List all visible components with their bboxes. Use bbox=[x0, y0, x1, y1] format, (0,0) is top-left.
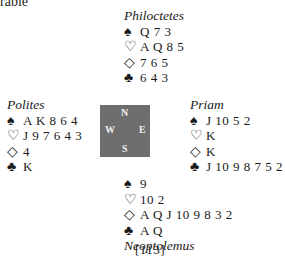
west-clubs: ♣K bbox=[7, 159, 82, 175]
heart-icon: ♡ bbox=[124, 192, 140, 208]
diamond-icon: ◇ bbox=[190, 144, 206, 160]
west-spades: ♠A K 8 6 4 bbox=[7, 113, 82, 129]
south-spades-cards: 9 bbox=[140, 176, 147, 191]
spade-icon: ♠ bbox=[190, 113, 206, 129]
east-diamonds: ◇K bbox=[190, 144, 283, 160]
west-spades-cards: A K 8 6 4 bbox=[23, 113, 78, 128]
south-diamonds: ◇A Q J 10 9 8 3 2 bbox=[124, 207, 233, 223]
west-hearts: ♡J 9 7 6 4 3 bbox=[7, 128, 82, 144]
club-icon: ♣ bbox=[190, 159, 206, 175]
west-hearts-cards: J 9 7 6 4 3 bbox=[23, 128, 82, 143]
diamond-icon: ◇ bbox=[7, 144, 23, 160]
east-player-name: Priam bbox=[190, 97, 283, 113]
diamond-icon: ◇ bbox=[124, 207, 140, 223]
north-diamonds-cards: 7 6 5 bbox=[140, 55, 169, 70]
east-clubs-cards: J 10 9 8 7 5 2 bbox=[206, 159, 283, 174]
east-spades-cards: J 10 5 2 bbox=[206, 113, 251, 128]
compass-box: N W E S bbox=[100, 105, 150, 157]
south-diamonds-cards: A Q J 10 9 8 3 2 bbox=[140, 207, 233, 222]
east-hearts-cards: K bbox=[206, 128, 216, 143]
north-hand: Philoctetes ♠Q 7 3 ♡A Q 8 5 ◇7 6 5 ♣6 4 … bbox=[124, 8, 184, 86]
heart-icon: ♡ bbox=[190, 128, 206, 144]
compass-south-label: S bbox=[122, 143, 128, 154]
spade-icon: ♠ bbox=[124, 24, 140, 40]
club-icon: ♣ bbox=[124, 223, 140, 239]
text-fragment: rable bbox=[0, 0, 28, 10]
east-hearts: ♡K bbox=[190, 128, 283, 144]
south-hearts-cards: 10 2 bbox=[140, 192, 165, 207]
east-clubs: ♣J 10 9 8 7 5 2 bbox=[190, 159, 283, 175]
club-icon: ♣ bbox=[7, 159, 23, 175]
north-diamonds: ◇7 6 5 bbox=[124, 55, 184, 71]
south-clubs: ♣A Q bbox=[124, 223, 233, 239]
diamond-icon: ◇ bbox=[124, 55, 140, 71]
west-clubs-cards: K bbox=[23, 159, 33, 174]
club-icon: ♣ bbox=[124, 70, 140, 86]
spade-icon: ♠ bbox=[7, 113, 23, 129]
north-player-name: Philoctetes bbox=[124, 8, 184, 24]
south-spades: ♠9 bbox=[124, 176, 233, 192]
south-clubs-cards: A Q bbox=[140, 223, 163, 238]
north-spades-cards: Q 7 3 bbox=[140, 24, 171, 39]
compass-west-label: W bbox=[105, 124, 115, 135]
north-clubs: ♣6 4 3 bbox=[124, 70, 184, 86]
east-spades: ♠J 10 5 2 bbox=[190, 113, 283, 129]
compass-north-label: N bbox=[121, 107, 128, 118]
north-clubs-cards: 6 4 3 bbox=[140, 70, 169, 85]
heart-icon: ♡ bbox=[124, 39, 140, 55]
north-hearts: ♡A Q 8 5 bbox=[124, 39, 184, 55]
heart-icon: ♡ bbox=[7, 128, 23, 144]
east-diamonds-cards: K bbox=[206, 144, 216, 159]
north-spades: ♠Q 7 3 bbox=[124, 24, 184, 40]
east-hand: Priam ♠J 10 5 2 ♡K ◇K ♣J 10 9 8 7 5 2 bbox=[190, 97, 283, 175]
west-diamonds: ◇4 bbox=[7, 144, 82, 160]
page-number: [113] bbox=[135, 242, 165, 258]
west-diamonds-cards: 4 bbox=[23, 144, 30, 159]
south-hearts: ♡10 2 bbox=[124, 192, 233, 208]
west-player-name: Polites bbox=[7, 97, 82, 113]
compass-east-label: E bbox=[139, 124, 146, 135]
spade-icon: ♠ bbox=[124, 176, 140, 192]
west-hand: Polites ♠A K 8 6 4 ♡J 9 7 6 4 3 ◇4 ♣K bbox=[7, 97, 82, 175]
north-hearts-cards: A Q 8 5 bbox=[140, 39, 184, 54]
